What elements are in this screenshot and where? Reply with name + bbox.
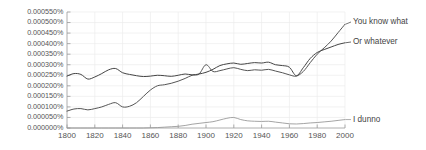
y-tick-label: 0.000200% — [27, 81, 64, 90]
x-tick-label: 1820 — [86, 131, 104, 140]
y-tick-label: 0.000150% — [27, 91, 64, 100]
ngram-chart: 0.000000%0.000050%0.000100%0.000150%0.00… — [0, 0, 426, 150]
x-tick-label: 1920 — [225, 131, 243, 140]
series-label-i-dunno[interactable]: I dunno — [353, 115, 381, 124]
y-tick-label: 0.000300% — [27, 60, 64, 69]
x-tick-label: 2000 — [336, 131, 354, 140]
series-end-labels: You know whatOr whateverI dunno — [346, 17, 409, 124]
x-tick-label: 1900 — [197, 131, 215, 140]
chart-canvas: 0.000000%0.000050%0.000100%0.000150%0.00… — [0, 0, 426, 150]
x-tick-label: 1800 — [58, 131, 76, 140]
series-label-you-know-what[interactable]: You know what — [353, 17, 408, 26]
x-tick-label: 1980 — [308, 131, 326, 140]
y-tick-label: 0.000250% — [27, 70, 64, 79]
legend-connector — [346, 22, 352, 24]
x-tick-label: 1940 — [253, 131, 271, 140]
x-axis-ticks: 1800182018401860188019001920194019601980… — [58, 125, 354, 140]
x-tick-label: 1960 — [281, 131, 299, 140]
y-tick-label: 0.000050% — [27, 112, 64, 121]
y-tick-label: 0.000450% — [27, 28, 64, 37]
y-axis-ticks: 0.000000%0.000050%0.000100%0.000150%0.00… — [27, 7, 70, 132]
y-tick-label: 0.000350% — [27, 49, 64, 58]
x-tick-label: 1840 — [114, 131, 132, 140]
y-tick-label: 0.000550% — [27, 7, 64, 16]
x-tick-label: 1860 — [142, 131, 160, 140]
y-tick-label: 0.000100% — [27, 102, 64, 111]
x-tick-label: 1880 — [169, 131, 187, 140]
y-tick-label: 0.000500% — [27, 17, 64, 26]
series-label-or-whatever[interactable]: Or whatever — [353, 37, 398, 46]
y-tick-label: 0.000400% — [27, 39, 64, 48]
legend-connector — [346, 42, 352, 43]
